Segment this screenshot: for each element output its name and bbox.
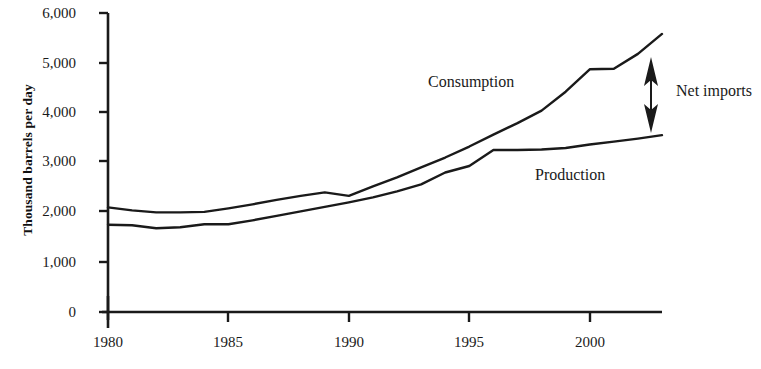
- x-axis-ticks: [228, 312, 590, 322]
- chart-figure: Thousand barrels per day 6,000 5,000 4,0…: [0, 0, 761, 369]
- plot-area: [0, 0, 761, 369]
- series-line-consumption: [108, 34, 662, 212]
- y-axis-ticks: [99, 13, 108, 312]
- net-imports-double-arrow-icon: [644, 57, 658, 133]
